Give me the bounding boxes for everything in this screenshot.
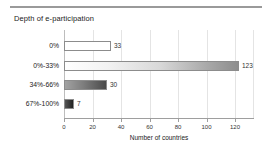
gridline-right-edge	[253, 30, 254, 118]
x-tick-mark-100	[207, 118, 208, 122]
x-tick-mark-0	[64, 118, 65, 122]
x-tick-label-40: 40	[118, 124, 125, 130]
category-label-2: 34%-66%	[30, 81, 59, 88]
x-tick-mark-60	[150, 118, 151, 122]
x-tick-label-100: 100	[201, 124, 211, 130]
bar-0[interactable]	[64, 41, 111, 51]
x-tick-label-60: 60	[146, 124, 153, 130]
chart-figure: Depth of e-participation 33 123 30 7 0% …	[0, 0, 272, 157]
category-label-0: 0%	[49, 42, 59, 49]
x-tick-mark-20	[93, 118, 94, 122]
gridline-80	[178, 30, 179, 118]
category-label-1: 0%-33%	[33, 62, 59, 69]
gridline-100	[207, 30, 208, 118]
category-label-3: 67%-100%	[26, 100, 59, 107]
bar-value-1: 123	[242, 62, 253, 69]
bar-value-0: 33	[114, 42, 121, 49]
bar-value-3: 7	[77, 100, 81, 107]
x-tick-mark-120	[235, 118, 236, 122]
x-axis-title: Number of countries	[64, 134, 254, 141]
bar-1[interactable]	[64, 61, 239, 71]
bar-2[interactable]	[64, 80, 107, 90]
chart-title: Depth of e-participation	[14, 14, 94, 23]
x-tick-mark-80	[178, 118, 179, 122]
top-divider-rule	[10, 6, 262, 8]
bar-value-2: 30	[110, 81, 117, 88]
x-tick-label-0: 0	[62, 124, 65, 130]
x-tick-label-120: 120	[230, 124, 240, 130]
bar-3[interactable]	[64, 99, 74, 109]
gridline-60	[150, 30, 151, 118]
x-tick-label-20: 20	[89, 124, 96, 130]
x-tick-label-80: 80	[175, 124, 182, 130]
gridline-120	[235, 30, 236, 118]
x-tick-mark-40	[121, 118, 122, 122]
